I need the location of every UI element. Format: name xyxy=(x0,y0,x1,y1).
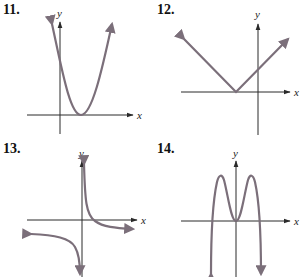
parabola-curve xyxy=(52,24,112,115)
graph-14-plot: x y xyxy=(181,147,299,277)
x-axis-label: x xyxy=(293,86,299,98)
v-curve xyxy=(184,39,288,92)
lower-branch xyxy=(31,234,80,274)
y-axis-label: y xyxy=(56,7,62,19)
upper-branch xyxy=(84,164,133,229)
graph-13-plot: x y xyxy=(27,147,146,277)
graphs-canvas: x y x y x y x y xyxy=(0,0,304,277)
y-axis-label: y xyxy=(232,147,238,159)
graph-11-plot: x y xyxy=(27,7,142,134)
x-axis-label: x xyxy=(293,215,299,227)
x-axis-label: x xyxy=(136,109,142,121)
y-axis-label: y xyxy=(254,8,260,20)
x-axis-label: x xyxy=(140,214,146,226)
graph-12-plot: x y xyxy=(181,8,299,135)
y-axis-label: y xyxy=(78,147,84,159)
